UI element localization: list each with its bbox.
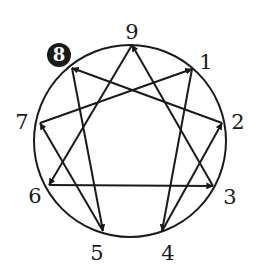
arrows-layer	[40, 45, 222, 231]
arrow-8-to-5	[72, 68, 103, 231]
point-label-8-highlighted: 8	[47, 43, 71, 67]
point-label-1: 1	[199, 50, 212, 74]
enneagram-diagram: 912345678	[0, 0, 260, 274]
arrow-1-to-4	[162, 69, 192, 231]
enneagram-circle	[34, 45, 226, 237]
point-label-5: 5	[90, 241, 103, 265]
point-label-4: 4	[161, 241, 174, 265]
point-label-3: 3	[223, 185, 236, 209]
arrow-7-to-1	[40, 69, 192, 123]
point-label-2: 2	[231, 110, 244, 134]
point-label-7: 7	[15, 110, 28, 134]
arrow-6-to-3	[49, 185, 213, 186]
point-label-6: 6	[28, 184, 41, 208]
arrow-2-to-8	[72, 68, 222, 123]
point-label-text: 8	[53, 44, 66, 65]
point-label-9: 9	[125, 20, 138, 44]
